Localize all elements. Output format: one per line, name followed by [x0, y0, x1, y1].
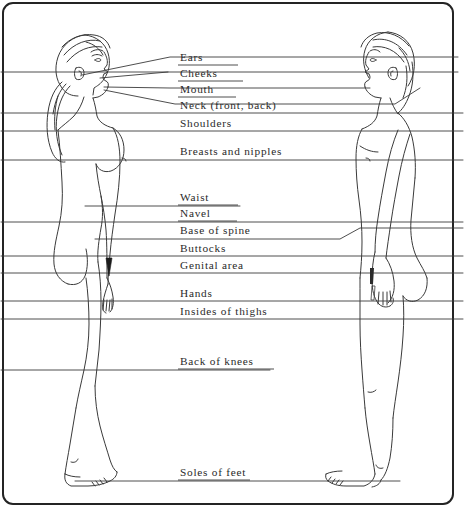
label-breasts-and-nipples: Breasts and nipples [180, 145, 282, 157]
label-mouth: Mouth [180, 83, 214, 95]
label-buttocks: Buttocks [180, 242, 226, 254]
label-back-of-knees: Back of knees [180, 355, 254, 367]
label-neck: Neck (front, back) [180, 99, 277, 111]
label-cheeks: Cheeks [180, 67, 218, 79]
label-genital-area: Genital area [180, 259, 244, 271]
label-hands: Hands [180, 287, 213, 299]
label-shoulders: Shoulders [180, 117, 232, 129]
label-soles-of-feet: Soles of feet [180, 466, 246, 478]
female-figure-outline [47, 35, 126, 486]
label-waist: Waist [180, 191, 209, 203]
label-insides-of-thighs: Insides of thighs [180, 305, 267, 317]
label-ears: Ears [180, 51, 203, 63]
male-figure-outline [326, 32, 428, 487]
label-navel: Navel [180, 207, 211, 219]
label-base-of-spine: Base of spine [180, 224, 251, 236]
diagram-page: Ears Cheeks Mouth Neck (front, back) Sho… [0, 0, 464, 520]
